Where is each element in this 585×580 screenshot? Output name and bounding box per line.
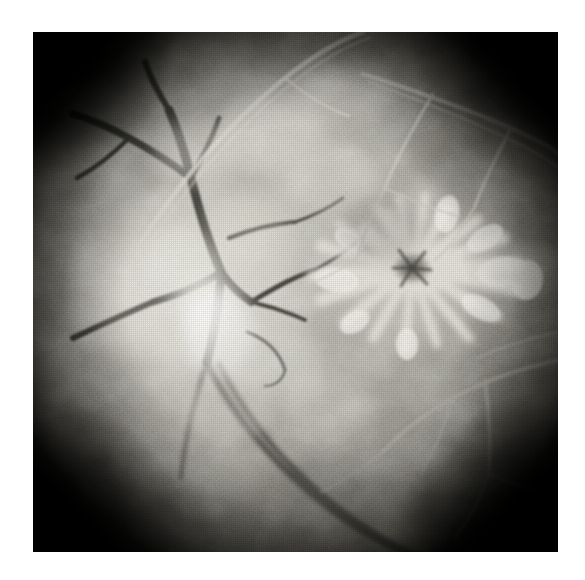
page-root <box>0 0 585 580</box>
halftone-screen-layer <box>33 32 558 552</box>
retinal-angiogram-image <box>33 32 558 552</box>
